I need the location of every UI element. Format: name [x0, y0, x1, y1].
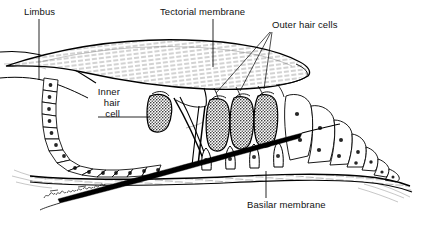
outer-hair-cell-2	[230, 97, 254, 149]
label-inner-hair-cell-line1: Inner	[66, 86, 120, 97]
inner-hair-cell-structure	[147, 92, 172, 133]
label-inner-hair-cell-line2: hair	[66, 97, 120, 108]
label-outer-hair-cells: Outer hair cells	[272, 19, 337, 30]
organ-of-corti-figure: Limbus Tectorial membrane Outer hair cel…	[0, 0, 422, 228]
outer-hair-cell-3	[254, 95, 278, 147]
label-inner-hair-cell-line3: cell	[66, 108, 120, 119]
label-tectorial-membrane: Tectorial membrane	[160, 6, 245, 17]
outer-hair-cell-1	[206, 99, 230, 151]
label-limbus: Limbus	[24, 6, 55, 17]
label-inner-hair-cell: Inner hair cell	[66, 86, 120, 119]
label-basilar-membrane: Basilar membrane	[247, 199, 326, 210]
anatomical-line-art	[0, 0, 422, 228]
